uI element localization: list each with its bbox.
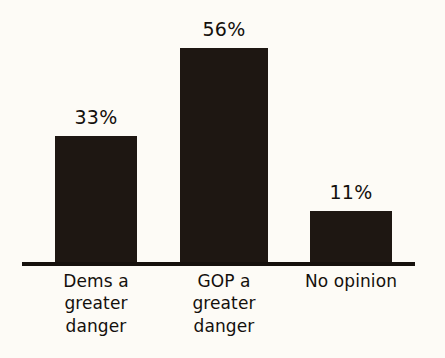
bar-gop	[180, 48, 268, 266]
plot-area: 33% 56% 11%	[0, 0, 445, 266]
bar-chart: 33% 56% 11% Dems a greater danger GOP a …	[0, 0, 445, 358]
category-label-no-opinion: No opinion	[291, 270, 411, 292]
category-labels: Dems a greater danger GOP a greater dang…	[0, 270, 445, 358]
bar-no-opinion	[310, 211, 392, 266]
bar-group-gop: 56%	[180, 0, 268, 266]
axis-baseline	[22, 262, 415, 266]
bar-group-no-opinion: 11%	[310, 0, 392, 266]
category-label-no-opinion-line-1: No opinion	[291, 270, 411, 292]
bar-group-dems: 33%	[55, 0, 137, 266]
category-label-dems: Dems a greater danger	[36, 270, 156, 337]
category-label-dems-line-3: danger	[36, 315, 156, 337]
category-label-gop-line-3: danger	[164, 315, 284, 337]
category-label-gop-line-1: GOP a	[164, 270, 284, 292]
bar-value-no-opinion: 11%	[330, 183, 373, 202]
bar-value-dems: 33%	[75, 108, 118, 127]
bar-dems	[55, 136, 137, 266]
category-label-dems-line-1: Dems a	[36, 270, 156, 292]
category-label-gop: GOP a greater danger	[164, 270, 284, 337]
category-label-gop-line-2: greater	[164, 292, 284, 314]
bar-value-gop: 56%	[203, 20, 246, 39]
category-label-dems-line-2: greater	[36, 292, 156, 314]
